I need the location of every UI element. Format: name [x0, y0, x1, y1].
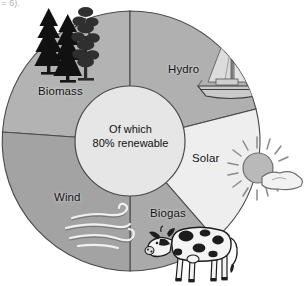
slice-label-biomass: Biomass — [38, 85, 83, 97]
center-note-line-1: Of which — [79, 122, 182, 136]
slice-label-biogas: Biogas — [150, 207, 186, 219]
slice-label-solar: Solar — [192, 152, 219, 164]
center-note-line-2: 80% renewable — [79, 136, 182, 150]
cloud-shape — [262, 172, 302, 190]
slice-label-wind: Wind — [54, 191, 81, 203]
donut-center-note: Of which 80% renewable — [79, 122, 182, 150]
renewable-energy-donut-figure: = 6). — [0, 0, 307, 286]
slice-label-hydro: Hydro — [168, 63, 199, 75]
